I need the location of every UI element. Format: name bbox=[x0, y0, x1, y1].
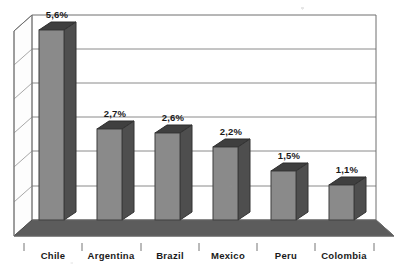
category-label-brazil: Brazil bbox=[156, 250, 184, 261]
value-label-chile: 5,6% bbox=[46, 9, 69, 20]
category-label-colombia: Colombia bbox=[321, 250, 367, 261]
category-label-mexico: Mexico bbox=[211, 250, 245, 261]
value-label-brazil: 2,6% bbox=[162, 112, 185, 123]
bar-chart-figure: 5,6% 2,7% 2,6% 2,2% 1,5% 1,1% Chile Arge… bbox=[0, 0, 398, 274]
value-label-argentina: 2,7% bbox=[104, 108, 127, 119]
value-label-colombia: 1,1% bbox=[336, 164, 359, 175]
value-label-peru: 1,5% bbox=[278, 150, 301, 161]
bar-peru bbox=[271, 163, 308, 220]
category-label-peru: Peru bbox=[275, 250, 297, 261]
chart-canvas: 5,6% 2,7% 2,6% 2,2% 1,5% 1,1% Chile Arge… bbox=[0, 0, 398, 274]
bar-brazil bbox=[155, 125, 192, 220]
bar-chile bbox=[39, 22, 76, 220]
bar-mexico bbox=[213, 139, 250, 220]
value-label-mexico: 2,2% bbox=[220, 126, 243, 137]
bar-argentina bbox=[97, 121, 134, 220]
plot-floor bbox=[14, 220, 394, 236]
bar-colombia bbox=[329, 177, 366, 220]
category-label-argentina: Argentina bbox=[87, 250, 134, 261]
category-label-chile: Chile bbox=[41, 250, 66, 261]
